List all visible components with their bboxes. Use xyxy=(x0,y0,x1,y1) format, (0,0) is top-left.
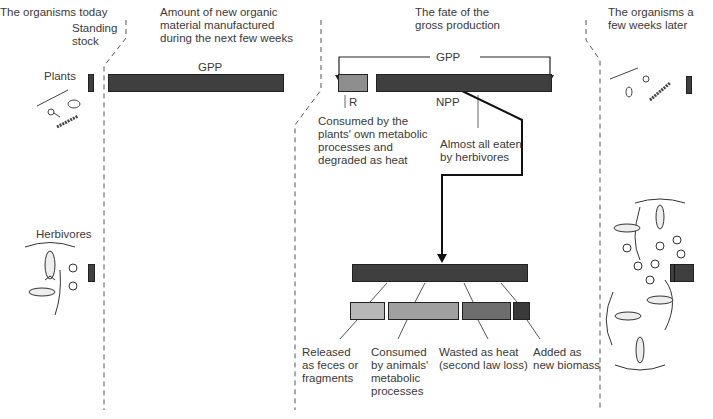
label-gpp-bracket: GPP xyxy=(436,51,460,64)
r-bar xyxy=(338,74,368,92)
plants-standing-stock-bar xyxy=(88,74,94,92)
npp-description: Almost all eaten by herbivores xyxy=(440,138,522,164)
ingested-bar xyxy=(352,264,528,282)
feces-label: Released as feces or fragments xyxy=(302,346,358,385)
plant-organisms-later-icon xyxy=(610,68,670,100)
herbivores-standing-stock-bar xyxy=(88,264,95,282)
label-herbivores: Herbivores xyxy=(36,228,92,241)
consumed-bar xyxy=(388,302,459,320)
label-plants: Plants xyxy=(44,70,76,83)
gpp-bar xyxy=(108,74,284,92)
label-standing-stock: Standing stock xyxy=(72,22,117,48)
herbivore-organisms-icon xyxy=(25,243,77,316)
added-bar xyxy=(513,302,530,320)
plant-organisms-icon xyxy=(37,90,80,127)
herbivore-organisms-later-icon xyxy=(606,199,685,370)
header-amount-new: Amount of new organic material manufactu… xyxy=(160,6,293,45)
label-npp: NPP xyxy=(436,96,460,109)
plants-later-bar xyxy=(686,76,692,94)
label-gpp: GPP xyxy=(198,61,222,74)
header-organisms-later: The organisms a few weeks later xyxy=(608,6,694,32)
label-r: R xyxy=(349,96,357,109)
added-label: Added as new biomass xyxy=(533,346,600,372)
feces-bar xyxy=(350,302,385,320)
wasted-bar xyxy=(462,302,511,320)
wasted-label: Wasted as heat (second law loss) xyxy=(439,346,528,372)
herbivores-later-bar-division xyxy=(674,264,675,282)
r-description: Consumed by the plants' own metabolic pr… xyxy=(318,115,428,167)
header-fate: The fate of the gross production xyxy=(415,6,500,32)
header-organisms-today: The organisms today xyxy=(0,6,107,19)
npp-bar xyxy=(376,74,552,92)
consumed-label: Consumed by animals' metabolic processes xyxy=(371,346,428,398)
